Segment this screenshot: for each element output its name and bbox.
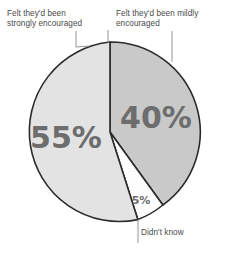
slice-value-strongly-encouraged: 55% bbox=[30, 120, 102, 155]
callout-label-strongly-encouraged: Felt they'd been strongly encouraged bbox=[7, 9, 111, 30]
slice-value-didnt-know: 5% bbox=[132, 194, 151, 207]
pie-chart-graphic: 55% 40% 5% bbox=[0, 0, 228, 254]
slice-value-mildly-encouraged: 40% bbox=[120, 100, 192, 135]
pie-chart: 55% 40% 5% Felt they'd been strongly enc… bbox=[0, 0, 228, 254]
callout-label-didnt-know: Didn't know bbox=[141, 228, 225, 238]
callout-label-mildly-encouraged: Felt they'd been mildly encouraged bbox=[116, 9, 224, 30]
